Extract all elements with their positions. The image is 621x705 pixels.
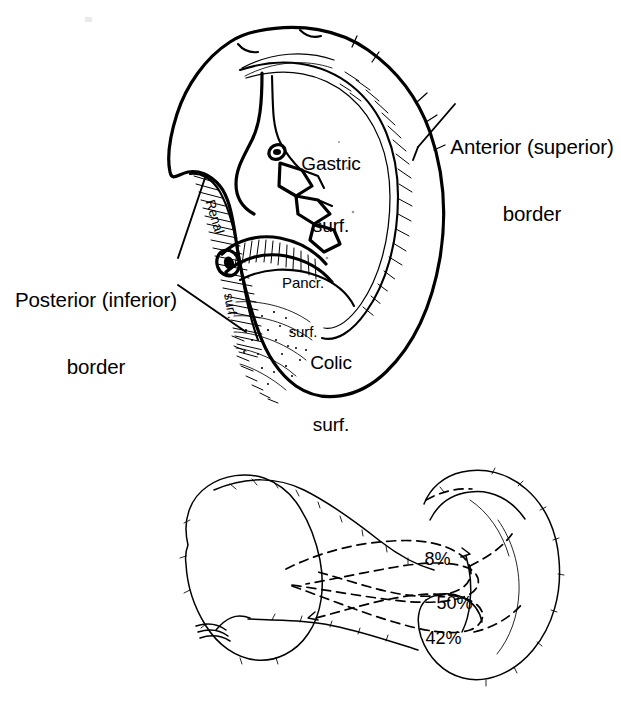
callout-posterior-border-line2: border <box>6 356 186 378</box>
label-colic-surface-line1: Colic <box>293 353 369 374</box>
tail-position-dashed-outlines <box>286 489 522 633</box>
anatomical-figure: .ink { fill:none; stroke:#000; stroke-li… <box>0 0 621 705</box>
label-pancreatic-surface-line1: Pancr. <box>269 275 337 291</box>
scan-artifact-speck <box>85 17 92 22</box>
callout-posterior-border: Posterior (inferior) border <box>6 245 186 422</box>
label-colic-surface: Colic surf. <box>293 312 369 476</box>
label-colic-surface-line2: surf. <box>293 415 369 436</box>
label-gastric-surface-line1: Gastric <box>288 154 374 175</box>
label-gastric-surface-line2: surf. <box>288 216 374 237</box>
callout-anterior-border-line2: border <box>443 203 621 225</box>
pancreas-spleen-lower <box>180 468 564 686</box>
callout-anterior-border: Anterior (superior) border <box>443 92 621 269</box>
callout-anterior-border-line1: Anterior (superior) <box>443 136 621 158</box>
label-renal-surface-word2: surf. <box>204 275 254 322</box>
label-percent-42: 42% <box>406 610 461 668</box>
callout-posterior-border-line1: Posterior (inferior) <box>6 289 186 311</box>
